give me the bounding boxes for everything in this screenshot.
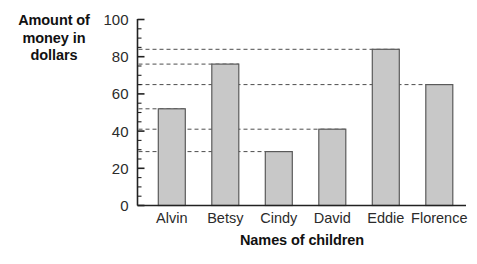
y-tick-label: 0	[120, 197, 128, 214]
bar[interactable]	[158, 109, 185, 206]
bar[interactable]	[372, 49, 399, 205]
y-tick-label: 60	[112, 85, 129, 102]
bar[interactable]	[212, 64, 239, 205]
category-labels-group: AlvinBetsyCindyDavidEddieFlorence	[156, 210, 467, 226]
y-tick-label: 100	[103, 11, 128, 28]
y-tick-label: 20	[112, 160, 129, 177]
bar[interactable]	[265, 152, 292, 206]
y-tick-label: 80	[112, 48, 129, 65]
category-label: David	[314, 210, 351, 226]
chart-canvas: 020406080100 AlvinBetsyCindyDavidEddieFl…	[0, 0, 477, 264]
category-label: Eddie	[367, 210, 404, 226]
y-tick-labels-group: 020406080100	[103, 11, 128, 214]
bars-group	[158, 49, 453, 205]
y-ticks-group	[138, 20, 145, 206]
category-label: Cindy	[260, 210, 298, 226]
bar[interactable]	[426, 85, 453, 206]
bar[interactable]	[319, 129, 346, 205]
category-label: Florence	[411, 210, 467, 226]
category-label: Betsy	[207, 210, 244, 226]
axes-group	[138, 19, 467, 206]
bar-chart: Amount of money in dollars Names of chil…	[0, 0, 477, 264]
y-tick-label: 40	[112, 123, 129, 140]
category-label: Alvin	[156, 210, 187, 226]
